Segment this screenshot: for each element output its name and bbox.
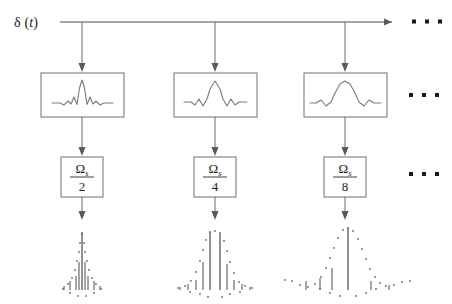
diagram-canvas: δ(t) Ωs 2 [0, 0, 452, 304]
ellipsis-dot [409, 172, 413, 176]
branch-2-mid-arrow-icon [212, 147, 219, 156]
block-diagram: δ(t) Ωs 2 [0, 0, 452, 304]
branch-3-filter-box[interactable] [304, 73, 387, 117]
ellipsis-row-rates [409, 172, 439, 176]
ellipsis-row-bus [412, 20, 442, 24]
ellipsis-dot [409, 93, 413, 97]
branch-3: Ωs 8 [284, 22, 411, 297]
branch-1-drop-arrow-icon [79, 63, 86, 72]
branch-1-out-arrow-icon [79, 211, 86, 220]
omega-glyph: Ω [339, 161, 349, 176]
ellipsis-dot [412, 20, 416, 24]
branch-3-out-arrow-icon [342, 211, 349, 220]
branch-2: Ωs 4 [174, 22, 257, 298]
paren-close: ) [33, 15, 38, 31]
omega-glyph: Ω [209, 161, 219, 176]
ellipsis-dot [435, 93, 439, 97]
branch-2-denominator: 4 [212, 179, 219, 194]
ellipsis-dot [435, 172, 439, 176]
branch-2-drop-arrow-icon [212, 63, 219, 72]
branch-1-filter-box[interactable] [41, 73, 124, 117]
input-signal-label: δ(t) [14, 15, 38, 31]
branch-1-denominator: 2 [79, 179, 86, 194]
branch-3-denominator: 8 [342, 179, 349, 194]
branch-3-output-plot [284, 227, 411, 297]
branch-1-output-plot [62, 232, 102, 297]
delta-symbol: δ [14, 15, 21, 30]
branch-1: Ωs 2 [41, 22, 124, 297]
bus-arrow-icon [384, 19, 392, 26]
branch-2-filter-box[interactable] [174, 73, 257, 117]
ellipsis-dot [422, 93, 426, 97]
ellipsis-dot [438, 20, 442, 24]
ellipsis-dot [425, 20, 429, 24]
branch-3-drop-arrow-icon [342, 63, 349, 72]
omega-glyph: Ω [76, 161, 86, 176]
ellipsis-row-filters [409, 93, 439, 97]
branch-3-mid-arrow-icon [342, 147, 349, 156]
branch-2-out-arrow-icon [212, 211, 219, 220]
ellipsis-dot [422, 172, 426, 176]
branch-1-mid-arrow-icon [79, 147, 86, 156]
branch-2-output-plot [177, 230, 253, 298]
